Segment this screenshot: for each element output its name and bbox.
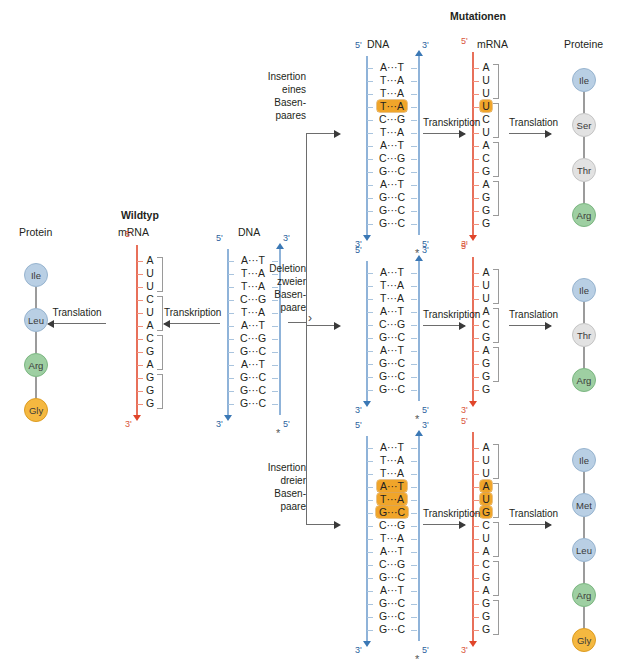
wildtype-mrna-base-11: G	[144, 398, 156, 409]
mutation0-mrna-base-1: U	[480, 75, 492, 86]
mutation0-mrna-rung-0	[473, 68, 479, 69]
wildtype-dna-basepair-11: G···C	[235, 398, 271, 409]
mutation2-mrna-codon-bracket-4	[493, 600, 499, 635]
wildtype-dna-arrow-down	[224, 415, 232, 421]
wildtype-mrna-codon-bracket-3	[157, 374, 163, 409]
mutation2-translation-arrow	[509, 524, 551, 525]
mutation1-dna-label-5prime-bottom: 5'	[422, 405, 429, 415]
wildtype-dna-basepair-10: G···C	[235, 385, 271, 396]
mutation1-dna-basepair-2: T···A	[374, 293, 410, 304]
mutation0-mrna-base-0: A	[480, 62, 492, 73]
wildtype-mrna-label-5prime: 5'	[125, 229, 132, 239]
wildtype-mrna-base-0: A	[144, 255, 156, 266]
mutation0-dna-label-5prime-top: 5'	[355, 40, 362, 50]
mutation1-dna-basepair-6: A···T	[374, 345, 410, 356]
mutation0-protein-bond-2	[583, 137, 585, 158]
mutation0-mrna-base-2: U	[480, 88, 492, 99]
wildtype-dna-rung-l-9	[228, 378, 234, 379]
mutation1-mrna-base-5: G	[480, 332, 492, 343]
mutation0-mrna-rung-1	[473, 81, 479, 82]
mutation2-mrna-rung-11	[473, 591, 479, 592]
mutation0-protein-bond-1	[583, 92, 585, 113]
mutation2-dna-basepair-7: T···A	[374, 533, 410, 544]
branch-trunk	[288, 322, 306, 323]
mutation0-dna-rung-r-4	[411, 120, 417, 121]
mutation2-dna-rung-l-4	[367, 500, 373, 501]
wildtype-translation-arrow	[48, 323, 106, 324]
mutation2-mrna-base-13: G	[480, 611, 492, 622]
mutation2-transcription-label: Transkription	[423, 508, 465, 519]
mutation1-dna-arrow-up	[415, 255, 423, 261]
mutation0-dna-strand-right	[418, 56, 420, 235]
wildtype-mrna-label-3prime: 3'	[125, 419, 132, 429]
mutation0-mrna-codon-bracket-0	[493, 64, 499, 99]
mutation2-dna-basepair-14: G···C	[374, 624, 410, 635]
mutation0-transcription-arrow	[423, 133, 465, 134]
wildtype-mrna-rung-5	[137, 326, 143, 327]
mutation2-mrna-rung-0	[473, 448, 479, 449]
wildtype-translation-label: Translation	[48, 307, 106, 318]
branch-arm-1	[306, 325, 334, 326]
mutation2-mrna-rung-13	[473, 617, 479, 618]
mutation2-dna-rung-l-1	[367, 461, 373, 462]
mutation2-dna-rung-l-8	[367, 552, 373, 553]
mutation1-mrna-label-3prime: 3'	[461, 405, 468, 415]
mutation2-mrna-rung-9	[473, 565, 479, 566]
mutation2-dna-star-marker: *	[415, 653, 419, 663]
mutation2-mrna-rung-12	[473, 604, 479, 605]
wildtype-mrna-rung-8	[137, 365, 143, 366]
mutation2-mrna-strand	[472, 432, 474, 641]
mutation1-dna-rung-l-6	[367, 351, 373, 352]
wildtype-mrna-rung-7	[137, 352, 143, 353]
mutation1-dna-basepair-1: T···A	[374, 280, 410, 291]
mutation1-mrna-base-3: A	[480, 306, 492, 317]
mutation0-mrna-base-7: C	[480, 153, 492, 164]
mutation2-dna-basepair-3: A···T	[374, 481, 410, 492]
wildtype-mrna-base-6: C	[144, 333, 156, 344]
mutation1-mrna-label-5prime: 5'	[461, 241, 468, 251]
mutation1-description-line-0: Deletion	[242, 263, 306, 274]
mutation1-mrna-base-7: G	[480, 358, 492, 369]
wildtype-dna-rung-r-6	[272, 339, 278, 340]
mutation2-dna-label-5prime-bottom: 5'	[422, 645, 429, 655]
mutation2-dna-basepair-1: T···A	[374, 455, 410, 466]
mutation2-mrna-codon-bracket-3	[493, 561, 499, 596]
mutation2-dna-basepair-5: G···C	[374, 507, 410, 518]
mutation1-dna-rung-r-1	[411, 286, 417, 287]
mutation1-mrna-rung-5	[473, 338, 479, 339]
mutation1-dna-rung-r-5	[411, 338, 417, 339]
wildtype-dna-rung-r-0	[272, 261, 278, 262]
mutation2-dna-basepair-8: A···T	[374, 546, 410, 557]
mutation2-mrna-base-4: U	[480, 494, 492, 505]
mutation2-dna-rung-r-2	[411, 474, 417, 475]
wildtype-dna-rung-r-8	[272, 365, 278, 366]
wildtype-dna-label-3prime-top: 3'	[283, 233, 290, 243]
mutation0-mrna-codon-bracket-3	[493, 181, 499, 216]
wildtype-mrna-rung-11	[137, 404, 143, 405]
mutation1-mrna-base-4: C	[480, 319, 492, 330]
mutation0-dna-arrow-down	[363, 235, 371, 241]
mutation2-mrna-rung-1	[473, 461, 479, 462]
wildtype-dna-rung-r-10	[272, 391, 278, 392]
mutation0-protein-residue-1: Ser	[572, 113, 596, 137]
mutation0-mrna-rung-11	[473, 211, 479, 212]
mutation1-transcription-arrow	[423, 325, 465, 326]
mutation0-dna-rung-l-2	[367, 94, 373, 95]
wildtype-mrna-rung-3	[137, 300, 143, 301]
mutation1-dna-basepair-0: A···T	[374, 267, 410, 278]
mutation0-dna-rung-r-1	[411, 81, 417, 82]
mutation2-mrna-base-3: A	[480, 481, 492, 492]
wildtype-dna-basepair-9: G···C	[235, 372, 271, 383]
wildtype-dna-rung-l-7	[228, 352, 234, 353]
mutation2-mrna-rung-14	[473, 630, 479, 631]
mutation2-mrna-rung-2	[473, 474, 479, 475]
mutation0-dna-rung-r-8	[411, 172, 417, 173]
mutation0-dna-rung-r-0	[411, 68, 417, 69]
wildtype-mrna-base-4: U	[144, 307, 156, 318]
mutation1-dna-label-3prime-top: 3'	[422, 245, 429, 255]
mutation1-mrna-base-1: U	[480, 280, 492, 291]
wildtype-dna-rung-l-2	[228, 287, 234, 288]
mutation0-description-line-1: eines	[242, 84, 306, 95]
wildtype-dna-arrow-up	[276, 243, 284, 249]
wildtype-mrna-strand	[136, 245, 138, 415]
